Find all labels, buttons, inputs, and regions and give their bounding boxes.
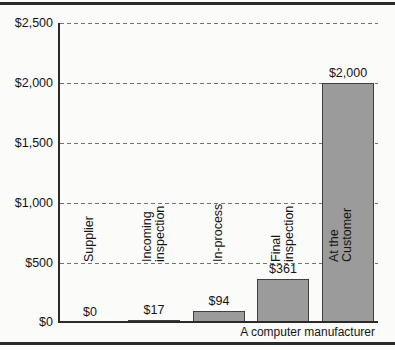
y-tick-label: $2,500	[0, 16, 53, 30]
bar-value-label: $17	[144, 304, 165, 317]
bar-at-the-customer	[322, 83, 374, 322]
bar-value-label: $361	[269, 263, 297, 276]
bar-group-final-inspection: $361	[257, 263, 309, 322]
category-label-incoming-inspection: Incoming inspection	[141, 206, 167, 262]
bar-value-label: $0	[83, 306, 97, 319]
y-tick-label: $1,000	[0, 196, 53, 210]
category-label-in-process: In-process	[212, 204, 225, 262]
bar-value-label: $94	[209, 295, 230, 308]
y-tick-label: $1,500	[0, 136, 53, 150]
category-label-final-inspection: Final inspection	[270, 206, 296, 262]
x-axis-line	[58, 321, 378, 323]
bottom-rule	[0, 342, 395, 345]
category-label-at-the-customer: At the Customer	[328, 208, 354, 262]
y-axis-line	[58, 23, 60, 322]
bar-group-at-the-customer: $2,000	[322, 67, 374, 322]
y-tick-label: $0	[0, 315, 53, 329]
chart-caption: A computer manufacturer	[59, 326, 375, 339]
category-label-supplier: Supplier	[83, 216, 96, 262]
bar-group-in-process: $94	[193, 295, 245, 322]
bar-chart: $2,500 $2,000 $1,500 $1,000 $500 $0 $0 $…	[0, 0, 395, 350]
y-tick-label: $2,000	[0, 76, 53, 90]
top-rule	[0, 2, 395, 5]
gridline-2500	[60, 23, 378, 24]
bar-final-inspection	[257, 279, 309, 322]
y-tick-label: $500	[0, 256, 53, 270]
bar-group-incoming-inspection: $17	[128, 304, 180, 322]
bar-group-supplier: $0	[64, 306, 116, 322]
bar-value-label: $2,000	[329, 67, 367, 80]
